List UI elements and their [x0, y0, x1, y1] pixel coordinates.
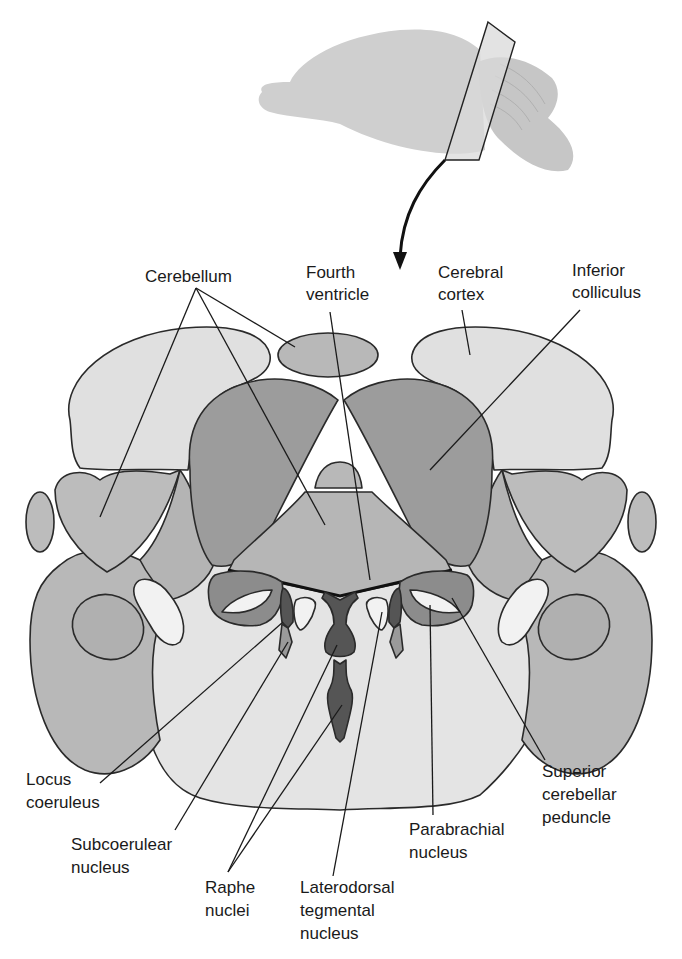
- paraflocculus-right: [628, 492, 656, 552]
- label-inferior-colliculus: Inferior colliculus: [572, 261, 641, 302]
- cerebellum-vermis: [278, 333, 378, 377]
- label-raphe-nuclei: Raphe nuclei: [205, 878, 260, 920]
- label-cerebral-cortex: Cerebral cortex: [438, 263, 508, 304]
- brain-hemisphere: [259, 29, 485, 153]
- section-arrow: [400, 160, 445, 258]
- label-laterodorsal-tegmental-nucleus: Laterodorsal tegmental nucleus: [300, 878, 399, 943]
- brain-inset: [259, 22, 574, 270]
- label-locus-coeruleus: Locus coeruleus: [26, 770, 100, 812]
- label-parabrachial-nucleus: Parabrachial nucleus: [409, 820, 509, 862]
- label-subcoerulear-nucleus: Subcoerulear nucleus: [71, 835, 177, 877]
- paraflocculus-left: [26, 492, 54, 552]
- label-fourth-ventricle: Fourth ventricle: [306, 263, 369, 304]
- arrow-head-icon: [393, 252, 407, 270]
- label-cerebellum: Cerebellum: [145, 267, 232, 286]
- label-superior-cerebellar-peduncle: Superior cerebellar peduncle: [542, 762, 621, 827]
- brainstem-section-diagram: Cerebellum Fourth ventricle Cerebral cor…: [0, 0, 682, 959]
